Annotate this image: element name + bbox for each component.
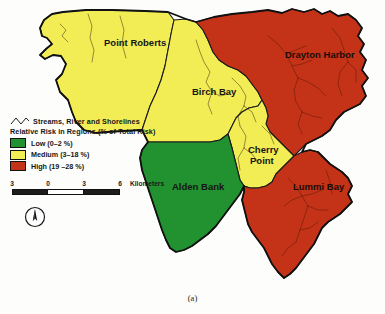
- region-label-birch-bay: Birch Bay: [192, 86, 237, 97]
- region-label-lummi-bay: Lummi Bay: [293, 181, 345, 192]
- region-label-point-roberts: Point Roberts: [104, 37, 166, 48]
- scale-tick-3: 6: [118, 180, 122, 187]
- scale-bar-graphic: [12, 189, 120, 195]
- streams-line-icon: [10, 116, 30, 126]
- region-label-drayton-harbor: Drayton Harbor: [285, 49, 355, 60]
- scale-bar: 3 0 3 6 Kilometers: [12, 180, 142, 195]
- scale-unit-label: Kilometers: [130, 180, 164, 187]
- legend-entry-high[interactable]: High (19 –28 %): [10, 161, 160, 171]
- scale-tick-labels: 3 0 3 6 Kilometers: [12, 180, 142, 189]
- figure-caption: (a): [0, 293, 385, 303]
- legend-swatch-low: [10, 138, 26, 148]
- legend-entry-medium[interactable]: Medium (3–18 %): [10, 150, 160, 160]
- legend-label-low: Low (0–2 %): [31, 139, 73, 148]
- scale-tick-0: 3: [10, 180, 14, 187]
- scale-tick-2: 3: [82, 180, 86, 187]
- legend-entry-low[interactable]: Low (0–2 %): [10, 138, 160, 148]
- scale-segment-1: [13, 190, 48, 194]
- north-arrow-icon: [24, 206, 46, 228]
- legend-swatch-medium: [10, 150, 26, 160]
- scale-segment-2: [48, 190, 83, 194]
- scale-segment-3: [84, 190, 119, 194]
- cherry-point-word-2: Point: [250, 155, 275, 166]
- region-label-alden-bank: Alden Bank: [172, 181, 225, 192]
- scale-tick-1: 0: [46, 180, 50, 187]
- legend-label-medium: Medium (3–18 %): [31, 150, 89, 159]
- figure-panel: Point Roberts Birch Bay Drayton Harbor C…: [0, 0, 385, 314]
- legend-streams-label: Streams, River and Shorelines: [33, 117, 140, 126]
- legend-label-high: High (19 –28 %): [31, 162, 84, 171]
- legend-streams-row: Streams, River and Shorelines: [10, 116, 160, 126]
- legend-swatch-high: [10, 161, 26, 171]
- legend-title: Relative Risk in Regions (% of Total Ris…: [10, 127, 160, 136]
- map-legend: Streams, River and Shorelines Relative R…: [10, 116, 160, 173]
- cherry-point-word-1: Cherry: [248, 144, 279, 155]
